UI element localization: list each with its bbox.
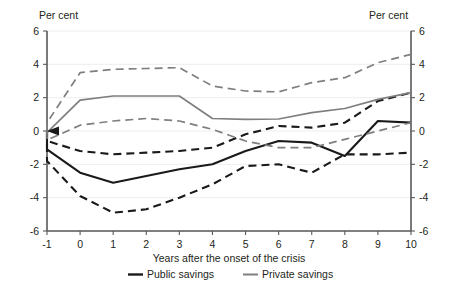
x-axis-title: Years after the onset of the crisis bbox=[153, 252, 306, 264]
x-tick-label: 0 bbox=[77, 238, 83, 250]
x-tick-label: 4 bbox=[210, 238, 216, 250]
x-tick-label: 3 bbox=[176, 238, 182, 250]
x-tick-label: -1 bbox=[42, 238, 51, 250]
x-tick-label: 9 bbox=[375, 238, 381, 250]
chart-container: 6420-2-4-6 6420-2-4-6 -1012345678910 Per… bbox=[0, 0, 458, 298]
y-tick-label-right: 0 bbox=[419, 125, 425, 137]
y-axis-left-unit-label: Per cent bbox=[39, 9, 78, 21]
x-tick-label: 1 bbox=[110, 238, 116, 250]
y-tick-label-right: -4 bbox=[419, 191, 428, 203]
x-tick-label: 2 bbox=[143, 238, 149, 250]
x-tick-label: 7 bbox=[309, 238, 315, 250]
x-tick-label: 6 bbox=[276, 238, 282, 250]
legend-label: Public savings bbox=[147, 268, 214, 280]
y-tick-label-right: 4 bbox=[419, 58, 425, 70]
y-tick-label-right: 2 bbox=[419, 91, 425, 103]
y-tick-label-left: 2 bbox=[33, 91, 39, 103]
y-tick-label-left: -4 bbox=[30, 191, 39, 203]
x-tick-label: 8 bbox=[342, 238, 348, 250]
y-tick-label-left: -2 bbox=[30, 158, 39, 170]
legend-label: Private savings bbox=[262, 268, 333, 280]
y-tick-label-left: -6 bbox=[30, 225, 39, 237]
y-tick-label-right: -6 bbox=[419, 225, 428, 237]
y-tick-label-right: -2 bbox=[419, 158, 428, 170]
y-axis-right-unit-label: Per cent bbox=[369, 9, 408, 21]
y-tick-label-left: 6 bbox=[33, 25, 39, 37]
x-tick-label: 10 bbox=[405, 238, 417, 250]
savings-line-chart: 6420-2-4-6 6420-2-4-6 -1012345678910 Per… bbox=[0, 0, 458, 298]
y-tick-label-left: 4 bbox=[33, 58, 39, 70]
x-tick-label: 5 bbox=[243, 238, 249, 250]
y-tick-label-right: 6 bbox=[419, 25, 425, 37]
y-tick-label-left: 0 bbox=[33, 125, 39, 137]
